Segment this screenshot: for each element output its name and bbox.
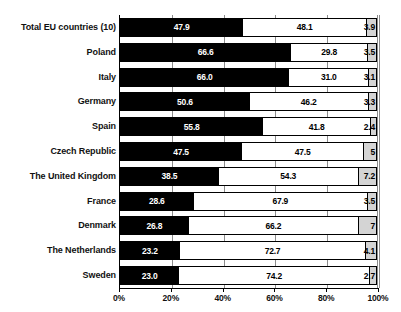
bar-segment-1[interactable]: 47.5 [120,142,242,161]
bar-rows: 47.948.13.966.629.83.566.031.03.150.646.… [120,15,377,288]
bar-segment-2[interactable]: 31.0 [289,68,369,87]
x-axis-tick-labels: 0%20%40%60%80%100% [0,293,401,309]
category-label: Sweden [0,270,116,280]
bar-value-label: 47.5 [295,147,311,157]
category-label: Italy [0,72,116,82]
bar-value-label: 48.1 [297,22,313,32]
bar-row[interactable]: 66.629.83.5 [120,43,377,62]
bar-value-label: 3.9 [364,22,375,32]
x-tick-label: 0% [99,293,139,303]
bar-segment-1[interactable]: 66.0 [120,68,289,87]
bar-row[interactable]: 47.547.55 [120,142,377,161]
category-label: Germany [0,96,116,106]
bar-value-label: 66.6 [198,47,214,57]
bar-segment-1[interactable]: 55.8 [120,117,263,136]
x-tick [378,288,379,292]
bar-value-label: 47.9 [174,22,190,32]
category-label: France [0,196,116,206]
bar-segment-3[interactable]: 3.3 [369,92,377,111]
bar-value-label: 28.6 [149,196,165,206]
bar-segment-2[interactable]: 41.8 [263,117,370,136]
category-label: The Netherlands [0,245,116,255]
bar-value-label: 29.8 [321,47,337,57]
bar-value-label: 46.2 [301,97,317,107]
bar-segment-1[interactable]: 23.2 [120,241,180,260]
x-tick [119,288,120,292]
bar-row[interactable]: 28.667.93.5 [120,192,377,211]
category-label: Total EU countries (10) [0,22,116,32]
bar-segment-2[interactable]: 72.7 [180,241,367,260]
bar-segment-2[interactable]: 29.8 [291,43,368,62]
bar-segment-2[interactable]: 48.1 [243,18,367,37]
bar-value-label: 23.2 [142,246,158,256]
x-axis-line [119,288,378,289]
bar-segment-2[interactable]: 74.2 [179,266,370,285]
bar-segment-1[interactable]: 38.5 [120,167,219,186]
bar-value-label: 3.5 [364,47,375,57]
bar-value-label: 3.3 [364,97,375,107]
bar-segment-3[interactable]: 4.1 [366,241,377,260]
x-tick [274,288,275,292]
bar-segment-3[interactable]: 3.9 [367,18,377,37]
bar-value-label: 50.6 [177,97,193,107]
category-label: Denmark [0,220,116,230]
bar-value-label: 4.1 [364,246,375,256]
bar-value-label: 7.2 [364,171,375,181]
category-label: The United Kingdom [0,171,116,181]
bar-value-label: 66.2 [266,221,282,231]
bar-value-label: 3.5 [364,196,375,206]
bar-row[interactable]: 38.554.37.2 [120,167,377,186]
x-tick-label: 80% [306,293,346,303]
bar-segment-1[interactable]: 66.6 [120,43,291,62]
bar-value-label: 26.8 [147,221,163,231]
bar-segment-2[interactable]: 46.2 [250,92,369,111]
x-tick [223,288,224,292]
bar-value-label: 2.7 [364,271,375,281]
plot-area: 47.948.13.966.629.83.566.031.03.150.646.… [119,15,378,288]
x-tick-label: 60% [254,293,294,303]
bar-row[interactable]: 23.272.74.1 [120,241,377,260]
bar-value-label: 41.8 [309,122,325,132]
bar-segment-2[interactable]: 54.3 [219,167,359,186]
bar-value-label: 67.9 [272,196,288,206]
bar-value-label: 5 [370,147,375,157]
bar-row[interactable]: 66.031.03.1 [120,68,377,87]
bar-segment-3[interactable]: 3.5 [368,192,377,211]
bar-segment-3[interactable]: 2.4 [371,117,377,136]
x-tick [326,288,327,292]
bar-row[interactable]: 47.948.13.9 [120,18,377,37]
bar-segment-1[interactable]: 28.6 [120,192,194,211]
bar-value-label: 66.0 [197,72,213,82]
bar-segment-2[interactable]: 47.5 [242,142,364,161]
bar-value-label: 7 [370,221,375,231]
bar-segment-3[interactable]: 5 [364,142,377,161]
bar-segment-3[interactable]: 2.7 [370,266,377,285]
bar-segment-3[interactable]: 3.5 [368,43,377,62]
bar-value-label: 47.5 [173,147,189,157]
bar-value-label: 72.7 [265,246,281,256]
category-label: Poland [0,47,116,57]
bar-row[interactable]: 23.074.22.7 [120,266,377,285]
bar-segment-2[interactable]: 66.2 [189,216,359,235]
bar-segment-1[interactable]: 50.6 [120,92,250,111]
category-label: Czech Republic [0,146,116,156]
bar-segment-3[interactable]: 7 [359,216,377,235]
bar-value-label: 38.5 [162,171,178,181]
bar-value-label: 23.0 [142,271,158,281]
bar-row[interactable]: 26.866.27 [120,216,377,235]
bar-segment-1[interactable]: 26.8 [120,216,189,235]
bar-value-label: 55.8 [184,122,200,132]
bar-value-label: 54.3 [280,171,296,181]
bar-segment-3[interactable]: 3.1 [369,68,377,87]
bar-value-label: 74.2 [266,271,282,281]
bar-segment-1[interactable]: 23.0 [120,266,179,285]
category-label: Spain [0,121,116,131]
gridline-100% [379,15,380,288]
x-tick-label: 100% [358,293,398,303]
x-tick-label: 20% [151,293,191,303]
bar-segment-2[interactable]: 67.9 [194,192,369,211]
bar-segment-1[interactable]: 47.9 [120,18,243,37]
bar-segment-3[interactable]: 7.2 [359,167,378,186]
bar-row[interactable]: 50.646.23.3 [120,92,377,111]
bar-row[interactable]: 55.841.82.4 [120,117,377,136]
